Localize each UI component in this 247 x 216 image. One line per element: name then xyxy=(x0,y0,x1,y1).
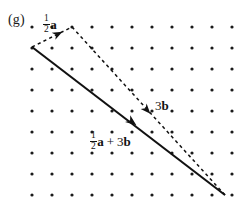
grid-dot xyxy=(170,67,173,70)
grid-dot xyxy=(230,25,233,28)
grid-dot xyxy=(30,88,33,91)
grid-dot xyxy=(30,25,33,28)
grid-dot xyxy=(150,46,153,49)
grid-dot xyxy=(110,193,113,196)
label-three-b: 3b xyxy=(155,99,169,112)
grid-dot xyxy=(70,67,73,70)
grid-dot xyxy=(50,88,53,91)
grid-dot xyxy=(230,172,233,175)
grid-dot xyxy=(110,46,113,49)
grid-dot xyxy=(230,46,233,49)
grid-dot xyxy=(170,130,173,133)
grid-dot xyxy=(50,109,53,112)
grid-dot xyxy=(30,130,33,133)
grid-dot xyxy=(210,88,213,91)
fraction-one-half-sum: 1 2 xyxy=(90,131,97,151)
grid-dot xyxy=(170,172,173,175)
label-half-a-plus-three-b: 1 2 a+3b xyxy=(90,131,131,151)
grid-dot xyxy=(130,193,133,196)
grid-dot xyxy=(210,130,213,133)
grid-dot xyxy=(110,151,113,154)
vector-a-symbol: a xyxy=(50,17,57,32)
grid-dot xyxy=(190,151,193,154)
grid-dot xyxy=(90,151,93,154)
grid-dot xyxy=(90,109,93,112)
grid-dot xyxy=(150,109,153,112)
grid-dot xyxy=(110,88,113,91)
grid-dot xyxy=(70,46,73,49)
grid-dot xyxy=(210,67,213,70)
grid-dot xyxy=(170,193,173,196)
grid-dot xyxy=(110,25,113,28)
grid-dot xyxy=(190,25,193,28)
grid-dot xyxy=(230,88,233,91)
fraction-one-half: 1 2 xyxy=(43,14,50,34)
grid-dot xyxy=(70,193,73,196)
grid-dot xyxy=(50,130,53,133)
grid-dot xyxy=(190,67,193,70)
grid-dot xyxy=(130,109,133,112)
grid-dot xyxy=(210,193,213,196)
grid-dot xyxy=(50,151,53,154)
grid-dot xyxy=(150,151,153,154)
grid-dot xyxy=(230,151,233,154)
grid-dot xyxy=(90,172,93,175)
grid-dot xyxy=(170,25,173,28)
fraction-denominator-sum: 2 xyxy=(90,142,97,152)
grid-dot xyxy=(130,130,133,133)
grid-dot xyxy=(90,67,93,70)
vector-layer xyxy=(32,27,225,195)
grid-dot xyxy=(190,46,193,49)
grid-dot xyxy=(170,88,173,91)
grid-dot xyxy=(30,67,33,70)
grid-dot xyxy=(30,151,33,154)
grid-dot xyxy=(50,46,53,49)
grid-dot xyxy=(150,130,153,133)
grid-dot xyxy=(130,88,133,91)
grid-dot xyxy=(50,172,53,175)
grid-dot xyxy=(130,25,133,28)
grid-dot xyxy=(210,25,213,28)
label-half-a: 1 2 a xyxy=(43,14,57,34)
grid-dot xyxy=(170,109,173,112)
grid-dot xyxy=(70,151,73,154)
grid-dot xyxy=(110,172,113,175)
grid-dot xyxy=(190,172,193,175)
grid-dot xyxy=(130,67,133,70)
grid-dot xyxy=(70,172,73,175)
grid-dot xyxy=(190,130,193,133)
grid-dot xyxy=(210,109,213,112)
grid-dot xyxy=(230,130,233,133)
grid-dot xyxy=(190,88,193,91)
vector-diagram-figure: (g) 1 2 a 3b 1 2 a+3b xyxy=(0,0,247,216)
grid-dot xyxy=(150,88,153,91)
grid-dot xyxy=(30,109,33,112)
plus-sign: + xyxy=(107,134,114,149)
grid-dot xyxy=(30,172,33,175)
grid-dot xyxy=(190,193,193,196)
grid-dot xyxy=(70,109,73,112)
vector-b-symbol-sum: b xyxy=(124,134,131,149)
grid-dot xyxy=(50,67,53,70)
grid-dot xyxy=(70,88,73,91)
grid-dot xyxy=(70,130,73,133)
diagram-canvas xyxy=(0,0,247,216)
arrowhead-three-b xyxy=(141,104,151,114)
grid-dot xyxy=(150,193,153,196)
grid-dot xyxy=(210,172,213,175)
grid-dot xyxy=(30,193,33,196)
grid-dot xyxy=(230,109,233,112)
grid-dot xyxy=(190,109,193,112)
grid-dot xyxy=(130,172,133,175)
grid-dot xyxy=(150,172,153,175)
vector-line-half-a-plus-three-b xyxy=(32,47,225,195)
grid-dot xyxy=(230,193,233,196)
grid-dot xyxy=(210,46,213,49)
grid-dot xyxy=(170,46,173,49)
grid-dot xyxy=(90,193,93,196)
grid-dot xyxy=(130,151,133,154)
vector-b-symbol: b xyxy=(162,98,169,113)
grid-dot xyxy=(230,67,233,70)
grid-dot xyxy=(130,46,133,49)
vector-a-symbol-sum: a xyxy=(97,134,104,149)
